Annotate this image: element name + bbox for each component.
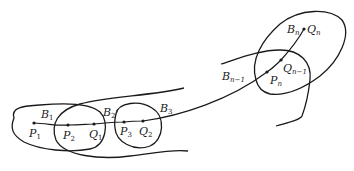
point-pn	[265, 70, 268, 73]
label-b3: B3	[159, 102, 173, 116]
point-q2	[141, 119, 144, 122]
point-p2	[66, 123, 69, 126]
label-q1: Q1	[89, 128, 103, 142]
label-pn: Pn	[269, 74, 282, 88]
point-p1	[32, 121, 35, 124]
neighborhood-chain-diagram: B1 B2 B3 Bn−1 Bn P1 P2 Q1 P3 Q2 Pn Qn−1 …	[0, 0, 354, 171]
label-qn-1: Qn−1	[283, 62, 307, 76]
label-p1: P1	[28, 127, 41, 141]
region-b2	[54, 88, 188, 157]
label-p3: P3	[119, 125, 132, 139]
region-bn	[254, 11, 345, 94]
point-p3	[122, 120, 125, 123]
label-bn: Bn	[286, 23, 300, 37]
label-p2: P2	[62, 129, 75, 143]
label-bn-1: Bn−1	[221, 70, 245, 84]
region-bn-1	[221, 50, 310, 126]
point-qn	[302, 27, 305, 30]
label-b1: B1	[40, 108, 54, 122]
label-q2: Q2	[139, 125, 153, 139]
label-b2: B2	[102, 106, 116, 120]
point-q1	[92, 122, 95, 125]
label-qn: Qn	[307, 23, 321, 37]
